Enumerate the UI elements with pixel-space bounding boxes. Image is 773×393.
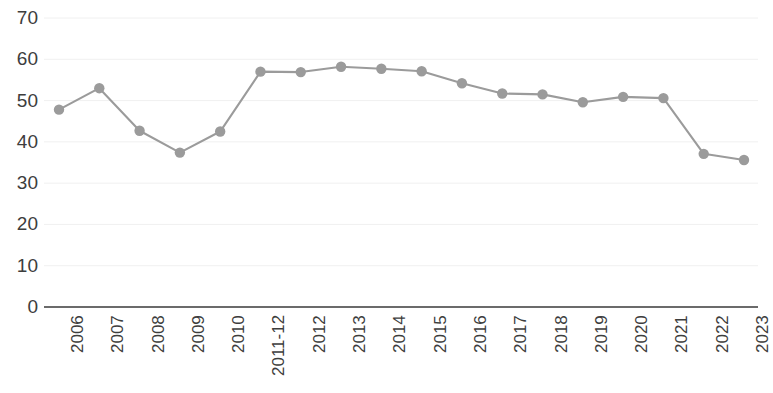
x-axis-tick-label: 2014: [390, 315, 410, 353]
x-axis-tick-label: 2017: [511, 315, 531, 353]
x-axis-tick-label: 2010: [229, 315, 249, 353]
x-axis-tick-label: 2013: [350, 315, 370, 353]
x-axis-tick-label: 2016: [471, 315, 491, 353]
x-axis-tick-label: 2011-12: [269, 315, 289, 376]
x-axis-tick-label: 2006: [68, 315, 88, 353]
x-axis-tick-label: 2009: [189, 315, 209, 353]
x-axis-tick-label: 2020: [632, 315, 652, 353]
x-axis-tick-label: 2023: [753, 315, 773, 353]
x-axis-tick-label: 2007: [108, 315, 128, 353]
x-axis-tick-label: 2008: [149, 315, 169, 353]
x-axis-tick-label: 2021: [672, 315, 692, 353]
x-axis-tick-label: 2015: [431, 315, 451, 353]
x-axis-tick-label: 2022: [713, 315, 733, 353]
x-axis-tick-label: 2012: [310, 315, 330, 353]
x-axis-tick-label: 2019: [592, 315, 612, 353]
x-axis-tick-label: 2018: [552, 315, 572, 353]
